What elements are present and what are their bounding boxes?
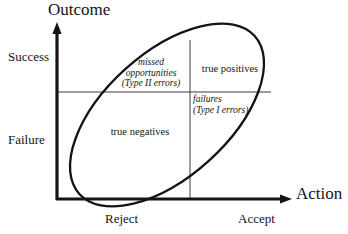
- quadrant-label-line: failures: [193, 94, 271, 105]
- quadrant-label-true-negatives: true negatives: [90, 126, 190, 138]
- x-tick-label-accept: Accept: [238, 212, 275, 227]
- quadrant-label-line: missed: [114, 57, 188, 68]
- y-axis-title: Outcome: [48, 0, 110, 19]
- quadrant-label-line: true positives: [192, 63, 268, 75]
- diagram-canvas: Outcome Action Success Failure Reject Ac…: [0, 0, 348, 234]
- y-tick-label-failure: Failure: [8, 133, 45, 148]
- quadrant-label-line: (Type I errors): [193, 105, 271, 116]
- x-axis-arrowhead: [280, 194, 292, 203]
- quadrant-label-line: (Type II errors): [114, 78, 188, 89]
- quadrant-label-line: opportunities: [114, 68, 188, 79]
- quadrant-label-failures: failures (Type I errors): [193, 94, 271, 115]
- x-axis-title: Action: [296, 184, 342, 203]
- quadrant-label-missed-opportunities: missed opportunities (Type II errors): [114, 57, 188, 89]
- y-tick-label-success: Success: [8, 50, 49, 65]
- quadrant-label-line: true negatives: [90, 126, 190, 138]
- y-axis-arrowhead: [52, 22, 61, 34]
- x-tick-label-reject: Reject: [105, 212, 138, 227]
- quadrant-label-true-positives: true positives: [192, 63, 268, 75]
